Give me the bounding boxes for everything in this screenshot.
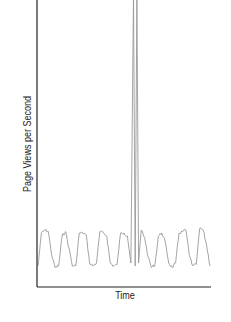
- plot-area: [37, 0, 211, 287]
- y-axis-label: Page Views per Second: [21, 95, 33, 193]
- x-axis-label: Time: [105, 289, 146, 301]
- page-views-line: [38, 0, 210, 268]
- line-chart: [0, 0, 231, 322]
